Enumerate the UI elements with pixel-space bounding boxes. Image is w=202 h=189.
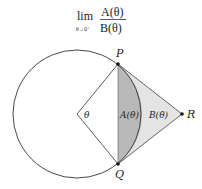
radius-OP — [77, 64, 118, 114]
limit-formula: lim θ→0⁺ A(θ) B(θ) — [76, 5, 126, 35]
label-R: R — [186, 108, 195, 121]
point-P — [116, 62, 120, 66]
diagram: lim θ→0⁺ A(θ) B(θ) P Q R θ A(θ) B(θ) — [0, 0, 202, 189]
lim-text: lim — [77, 9, 94, 23]
label-A: A(θ) — [119, 110, 139, 120]
point-Q — [116, 162, 120, 166]
label-B: B(θ) — [148, 110, 169, 120]
point-R — [180, 112, 184, 116]
label-P: P — [115, 47, 124, 60]
numerator: A(θ) — [101, 5, 123, 19]
label-Q: Q — [115, 168, 124, 181]
denominator: B(θ) — [100, 21, 122, 35]
lim-subscript: θ→0⁺ — [76, 26, 90, 32]
radius-OQ — [77, 114, 118, 164]
label-theta: θ — [84, 110, 90, 120]
